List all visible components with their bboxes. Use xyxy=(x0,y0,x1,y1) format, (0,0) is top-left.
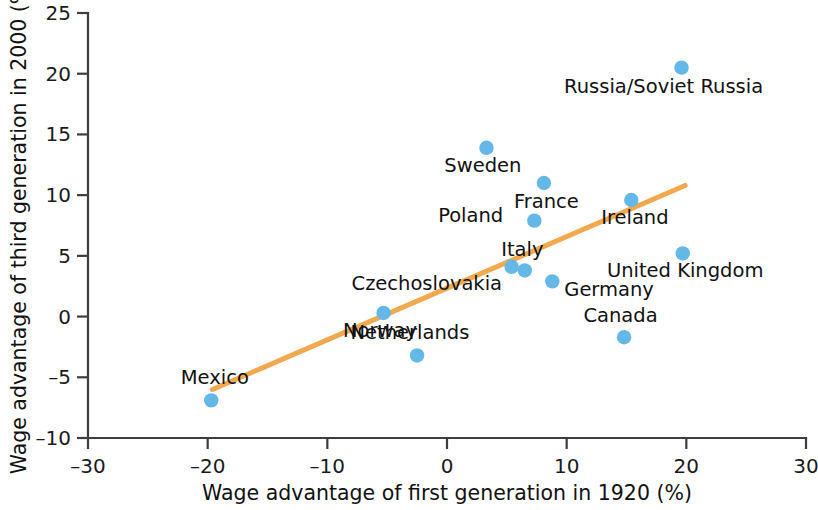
y-tick-label: 10 xyxy=(46,183,71,207)
point-label-ireland: Ireland xyxy=(601,206,668,229)
data-point-poland[interactable] xyxy=(527,213,541,227)
point-label-poland: Poland xyxy=(438,204,503,227)
point-label-france: France xyxy=(514,190,579,213)
scatter-chart-figure: –10–50510152025–30–20–100102030Wage adva… xyxy=(0,0,818,510)
x-tick-label: 0 xyxy=(441,454,454,478)
data-point-italy[interactable] xyxy=(518,263,532,277)
point-label-sweden: Sweden xyxy=(444,154,521,177)
point-label-italy: Italy xyxy=(501,238,543,261)
x-tick-label: –30 xyxy=(70,454,105,478)
y-tick-label: 15 xyxy=(46,122,71,146)
data-point-germany[interactable] xyxy=(545,274,559,288)
x-tick-label: –20 xyxy=(190,454,225,478)
data-point-mexico[interactable] xyxy=(204,393,218,407)
data-point-canada[interactable] xyxy=(617,330,631,344)
x-tick-label: 20 xyxy=(674,454,699,478)
x-tick-label: –10 xyxy=(310,454,345,478)
point-label-mexico: Mexico xyxy=(181,366,249,389)
x-axis-title: Wage advantage of first generation in 19… xyxy=(202,481,692,505)
point-label-russia-soviet-russia: Russia/Soviet Russia xyxy=(564,75,763,98)
y-tick-label: 20 xyxy=(46,62,71,86)
y-tick-label: –5 xyxy=(48,365,71,389)
y-tick-label: 25 xyxy=(46,1,71,25)
data-point-russia-soviet-russia[interactable] xyxy=(674,60,688,74)
point-label-canada: Canada xyxy=(583,304,657,327)
plot-area: –10–50510152025–30–20–100102030Wage adva… xyxy=(0,0,818,510)
data-point-czechoslovakia[interactable] xyxy=(504,260,518,274)
x-tick-label: 30 xyxy=(793,454,818,478)
point-label-czechoslovakia: Czechoslovakia xyxy=(352,272,503,295)
data-point-netherlands[interactable] xyxy=(410,348,424,362)
x-tick-label: 10 xyxy=(554,454,579,478)
y-tick-label: 5 xyxy=(58,244,71,268)
y-axis-title: Wage advantage of third generation in 20… xyxy=(7,0,31,474)
point-label-germany: Germany xyxy=(564,278,654,301)
point-label-netherlands: Netherlands xyxy=(350,321,469,344)
data-point-france[interactable] xyxy=(537,176,551,190)
y-tick-label: 0 xyxy=(58,305,71,329)
y-tick-label: –10 xyxy=(36,426,71,450)
